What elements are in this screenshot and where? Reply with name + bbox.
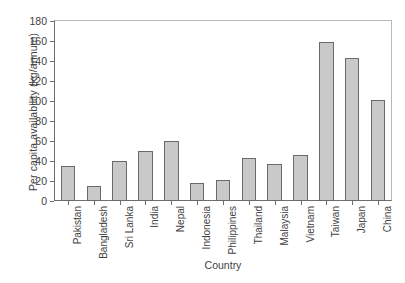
x-tick bbox=[55, 201, 81, 205]
y-tick-label: 20 bbox=[35, 175, 50, 186]
x-tick bbox=[365, 201, 391, 205]
x-label-slot: Philippines bbox=[210, 206, 236, 254]
bar bbox=[112, 161, 126, 201]
bar bbox=[242, 158, 256, 201]
x-label-slot: Indonesia bbox=[184, 206, 210, 254]
x-tick bbox=[262, 201, 288, 205]
x-label-slot: Thailand bbox=[236, 206, 262, 254]
bar-slot bbox=[339, 21, 365, 201]
bar-slot bbox=[133, 21, 159, 201]
bar-slot bbox=[236, 21, 262, 201]
x-tick bbox=[107, 201, 133, 205]
bar-slot bbox=[210, 21, 236, 201]
y-tick-label: 80 bbox=[35, 115, 50, 126]
bar-slot bbox=[288, 21, 314, 201]
x-axis-tick-labels: PakistanBangladeshSri LankaIndiaNepalInd… bbox=[55, 206, 391, 254]
bar bbox=[138, 151, 152, 201]
y-tick-label: 180 bbox=[29, 15, 50, 26]
x-label-slot: India bbox=[133, 206, 159, 254]
x-tick bbox=[339, 201, 365, 205]
x-tick bbox=[81, 201, 107, 205]
bar-slot bbox=[158, 21, 184, 201]
bar bbox=[190, 183, 204, 201]
bar bbox=[87, 186, 101, 201]
y-axis-ticks: 020406080100120140160180 bbox=[0, 20, 54, 201]
x-tick bbox=[236, 201, 262, 205]
bar bbox=[371, 100, 385, 201]
x-label-slot: Vietnam bbox=[288, 206, 314, 254]
x-tick bbox=[133, 201, 159, 205]
x-label-slot: Taiwan bbox=[313, 206, 339, 254]
bar bbox=[216, 180, 230, 201]
x-axis-title: Country bbox=[54, 259, 392, 271]
x-tick bbox=[313, 201, 339, 205]
x-label-slot: Japan bbox=[339, 206, 365, 254]
bar-slot bbox=[313, 21, 339, 201]
y-tick-label: 60 bbox=[35, 135, 50, 146]
x-axis-ticks bbox=[55, 201, 391, 205]
bar bbox=[293, 155, 307, 201]
y-tick-label: 0 bbox=[41, 195, 50, 206]
bar-slot bbox=[81, 21, 107, 201]
bar-slot bbox=[184, 21, 210, 201]
bar bbox=[61, 166, 75, 201]
x-tick bbox=[210, 201, 236, 205]
bars-container bbox=[55, 21, 391, 201]
x-tick bbox=[158, 201, 184, 205]
x-label-slot: Sri Lanka bbox=[107, 206, 133, 254]
bar-slot bbox=[55, 21, 81, 201]
bar-slot bbox=[262, 21, 288, 201]
bar bbox=[267, 164, 281, 201]
y-tick-label: 140 bbox=[29, 55, 50, 66]
bar bbox=[319, 42, 333, 201]
bar-slot bbox=[107, 21, 133, 201]
y-tick-label: 40 bbox=[35, 155, 50, 166]
x-label-slot: China bbox=[365, 206, 391, 254]
x-label-slot: Nepal bbox=[158, 206, 184, 254]
bar bbox=[345, 58, 359, 201]
x-tick bbox=[288, 201, 314, 205]
x-tick-label: China bbox=[382, 206, 393, 232]
y-tick-label: 120 bbox=[29, 75, 50, 86]
y-tick-label: 100 bbox=[29, 95, 50, 106]
bar-slot bbox=[365, 21, 391, 201]
bar bbox=[164, 141, 178, 201]
x-label-slot: Pakistan bbox=[55, 206, 81, 254]
y-tick-label: 160 bbox=[29, 35, 50, 46]
x-label-slot: Malaysia bbox=[262, 206, 288, 254]
bar-chart: Per capita availability (kg/annum) 02040… bbox=[0, 0, 405, 283]
x-tick bbox=[184, 201, 210, 205]
x-label-slot: Bangladesh bbox=[81, 206, 107, 254]
